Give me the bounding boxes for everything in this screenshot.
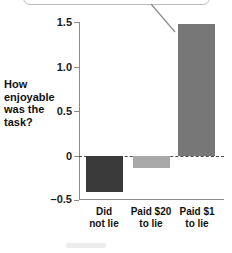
y-tick-neg0.5: –0.5 bbox=[20, 194, 72, 205]
callout-box bbox=[23, 0, 210, 5]
y-tick-1.5: 1.5 bbox=[20, 17, 72, 28]
y-tick-1.0: 1.0 bbox=[20, 62, 72, 73]
bar-did-not-lie bbox=[86, 156, 123, 192]
y-axis-label-line: task? bbox=[4, 116, 66, 129]
y-axis-label-line: was the bbox=[4, 103, 66, 116]
y-tick-label: 0 bbox=[26, 151, 72, 162]
chart-figure: 1.5 1.0 0.5 0 –0.5 How enjoyable was the… bbox=[0, 0, 232, 253]
y-axis-line bbox=[79, 22, 80, 200]
x-label-line: to lie bbox=[168, 218, 226, 230]
y-axis-label-line: How bbox=[4, 78, 66, 91]
y-tick-mark bbox=[74, 200, 79, 201]
y-tick-label: 1.0 bbox=[26, 62, 72, 73]
y-tick-mark bbox=[74, 22, 79, 23]
y-axis-label-line: enjoyable bbox=[4, 91, 66, 104]
y-axis-label: How enjoyable was the task? bbox=[4, 78, 66, 128]
x-label-line: Paid $1 bbox=[168, 206, 226, 218]
x-label-paid-1-to-lie: Paid $1 to lie bbox=[168, 206, 226, 229]
y-tick-label: –0.5 bbox=[26, 194, 72, 205]
page-artifact bbox=[66, 243, 106, 248]
y-tick-mark bbox=[74, 67, 79, 68]
x-axis-line bbox=[79, 199, 224, 200]
bar-paid-20-to-lie bbox=[133, 156, 170, 168]
y-tick-mark bbox=[74, 111, 79, 112]
y-tick-label: 1.5 bbox=[26, 17, 72, 28]
y-tick-0: 0 bbox=[20, 151, 72, 162]
bar-paid-1-to-lie bbox=[178, 24, 215, 156]
